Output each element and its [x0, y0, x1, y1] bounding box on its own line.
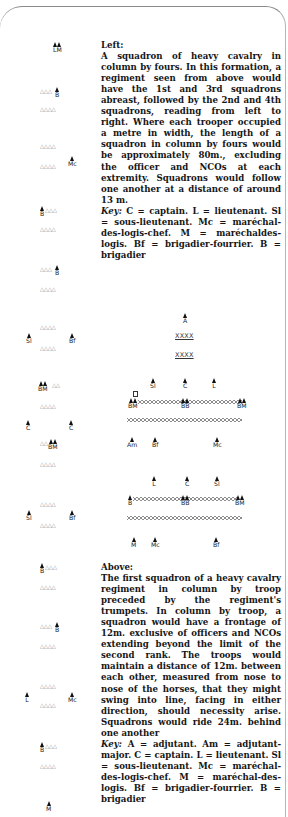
key-label: Key: [101, 739, 122, 749]
officer-marker: BB [181, 398, 190, 409]
caption-above-heading: Above: [101, 562, 281, 573]
key-body: A = adjutant. Am = adjut­ant-major. C = … [101, 739, 281, 804]
officer-marker: BM [235, 495, 245, 506]
officer-label: Sl [214, 481, 220, 487]
caption-left: Left: A squadron of heavy cavalry in col… [101, 40, 281, 261]
trumpets-row-1: ΧΧΧΧ [175, 333, 194, 340]
officer-label: C [185, 481, 189, 487]
officer-label: Bf [152, 442, 158, 448]
officer-marker: Mc [151, 537, 160, 548]
officer-label: Mc [213, 442, 222, 448]
officer-marker: BB [181, 495, 190, 506]
first-rank-row [138, 400, 242, 404]
officer-marker: L [212, 378, 216, 389]
officer-marker: Sl [214, 476, 220, 487]
officer-marker: A [183, 313, 187, 324]
officer-label: C [183, 383, 187, 389]
officer-label: BB [181, 403, 190, 409]
caption-left-heading: Left: [101, 40, 281, 51]
officer-label: BB [181, 500, 190, 506]
caption-left-body: A squadron of heavy cavalry in column by… [101, 51, 281, 206]
officer-marker: Mc [213, 437, 222, 448]
officer-label: L [152, 481, 156, 487]
trumpets-row-2: ΧΧΧΧ [175, 352, 194, 359]
officer-marker: Sl [150, 378, 156, 389]
officer-marker: C [183, 378, 187, 389]
officer-label: Sl [150, 383, 156, 389]
caption-left-key: Key: C = captain. L = lieutenant. Sl = s… [101, 206, 281, 261]
officer-marker: C [185, 476, 189, 487]
officer-label: BM [237, 403, 247, 409]
officer-marker: B [128, 495, 132, 506]
officer-label: A [183, 318, 187, 324]
officer-label: M [131, 542, 136, 548]
officer-label: Bf [213, 542, 219, 548]
second-rank-row [127, 418, 242, 422]
officer-label: Mc [151, 542, 160, 548]
caption-above-body: The first squadron of a heavy cavalry re… [101, 573, 281, 739]
officer-marker: Am [127, 437, 137, 448]
officer-marker: Bf [213, 537, 219, 548]
officer-label: BM [128, 403, 138, 409]
standard-flag-icon [133, 391, 138, 397]
key-body: C = captain. L = lieutenant. Sl = sous-l… [101, 206, 281, 260]
key-label: Key: [101, 206, 122, 216]
officer-marker: L [152, 476, 156, 487]
officer-marker: BM [237, 398, 247, 409]
officer-label: BM [235, 500, 245, 506]
officer-label: B [128, 500, 132, 506]
officer-label: L [212, 383, 216, 389]
officer-marker: Bf [152, 437, 158, 448]
caption-above-key: Key: A = adjutant. Am = adjut­ant-major.… [101, 739, 281, 805]
caption-above: Above: The first squadron of a heavy cav… [101, 562, 281, 805]
officer-marker: M [131, 537, 136, 548]
officer-marker: BM [128, 398, 138, 409]
officer-label: Am [127, 442, 137, 448]
second-rank-row-2 [127, 516, 242, 520]
